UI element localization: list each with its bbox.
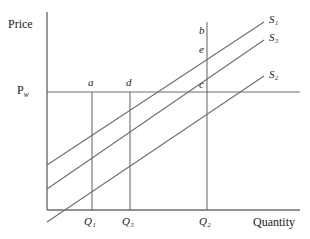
world-price-subscript: w bbox=[24, 90, 29, 99]
point-label-d: d bbox=[126, 77, 132, 88]
world-price-label: Pw bbox=[17, 84, 29, 99]
point-label-b: b bbox=[199, 25, 205, 36]
x-axis-label: Quantity bbox=[253, 216, 295, 228]
tick-label-q3: Q₃ bbox=[122, 216, 134, 227]
supply-curve-s2 bbox=[47, 76, 264, 222]
point-label-a: a bbox=[88, 77, 94, 88]
curve-label-s3: S₃ bbox=[269, 32, 278, 43]
supply-curve-s3 bbox=[47, 40, 264, 189]
curve-label-s1: S₁ bbox=[269, 14, 278, 25]
point-label-c: c bbox=[199, 79, 204, 90]
tick-label-q1: Q₁ bbox=[84, 216, 96, 227]
diagram-canvas bbox=[0, 0, 310, 239]
y-axis-label: Price bbox=[8, 18, 33, 30]
supply-curve-s1 bbox=[47, 22, 264, 165]
curve-label-s2: S₂ bbox=[269, 69, 278, 80]
tick-label-q2: Q₂ bbox=[199, 216, 211, 227]
point-label-e: e bbox=[199, 44, 204, 55]
world-price-base: P bbox=[17, 83, 24, 97]
supply-curve-diagram: Price Quantity Pw S₁ S₃ S₂ a b c d e Q₁ … bbox=[0, 0, 310, 239]
